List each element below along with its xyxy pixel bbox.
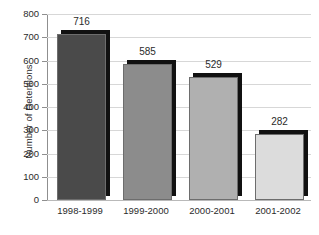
bar-value-label: 282: [271, 117, 288, 127]
x-axis-label: 2001-2002: [245, 206, 311, 216]
bar: 585: [123, 64, 172, 200]
y-tick-label: 700: [5, 32, 39, 42]
y-tick-label: 100: [5, 172, 39, 182]
y-tick-label: 800: [5, 9, 39, 19]
y-tick-label: 0: [5, 195, 39, 205]
y-tick-label: 500: [5, 79, 39, 89]
bar-fill: [255, 134, 304, 200]
y-tick-label: 600: [5, 56, 39, 66]
gridline: [47, 14, 311, 15]
bar-value-label: 529: [205, 60, 222, 70]
x-axis-label: 1999-2000: [113, 206, 179, 216]
y-tick-label: 200: [5, 149, 39, 159]
gridline: [47, 200, 311, 201]
plot-area: 716585529282: [47, 14, 311, 200]
x-axis-label: 1998-1999: [47, 206, 113, 216]
y-tick-label: 400: [5, 102, 39, 112]
bar-value-label: 585: [139, 47, 156, 57]
bar-chart: Number of Detentions 8007006005004003002…: [0, 0, 319, 235]
bar-fill: [123, 64, 172, 200]
bar-value-label: 716: [73, 17, 90, 27]
bar: 282: [255, 134, 304, 200]
bar-fill: [189, 77, 238, 200]
x-axis-label: 2000-2001: [179, 206, 245, 216]
bar: 716: [57, 34, 106, 200]
bar-fill: [57, 34, 106, 200]
bar: 529: [189, 77, 238, 200]
y-tick-label: 300: [5, 125, 39, 135]
